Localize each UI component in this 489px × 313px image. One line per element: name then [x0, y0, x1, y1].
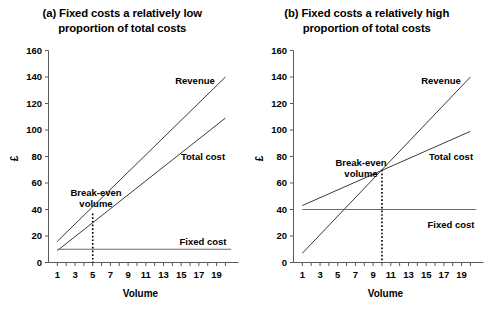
x-axis-title: Volume [123, 288, 159, 299]
series-label-fixed-cost: Fixed cost [180, 236, 228, 247]
break-even-charts-figure: (a) Fixed costs a relatively low proport… [0, 0, 489, 313]
y-axis-title: £ [9, 155, 20, 161]
x-tick-label-3: 3 [317, 269, 322, 280]
x-axis-title: Volume [367, 288, 403, 299]
y-tick-label-140: 140 [271, 71, 287, 82]
y-tick-label-0: 0 [281, 257, 286, 268]
y-tick-label-60: 60 [276, 177, 287, 188]
series-label-revenue: Revenue [175, 75, 215, 86]
y-tick-label-80: 80 [31, 151, 42, 162]
y-tick-label-0: 0 [37, 257, 42, 268]
x-tick-label-19: 19 [211, 269, 222, 280]
panel-b-plot: 020406080100120140160135791113151719Volu… [245, 0, 489, 313]
x-tick-label-5: 5 [90, 269, 96, 280]
break-even-label-line1: Break-even [70, 187, 121, 198]
x-tick-label-3: 3 [72, 269, 77, 280]
x-tick-label-15: 15 [420, 269, 431, 280]
x-tick-label-11: 11 [141, 269, 152, 280]
chart-panel-a: (a) Fixed costs a relatively low proport… [0, 0, 245, 313]
x-tick-label-13: 13 [403, 269, 414, 280]
x-tick-label-5: 5 [335, 269, 341, 280]
series-label-revenue: Revenue [421, 75, 461, 86]
x-tick-label-7: 7 [108, 269, 113, 280]
x-tick-label-19: 19 [456, 269, 467, 280]
y-tick-label-40: 40 [276, 204, 287, 215]
x-tick-label-9: 9 [125, 269, 130, 280]
y-tick-label-100: 100 [271, 124, 287, 135]
x-tick-label-9: 9 [370, 269, 375, 280]
x-tick-label-15: 15 [176, 269, 187, 280]
y-tick-label-160: 160 [271, 45, 287, 56]
x-tick-label-1: 1 [299, 269, 305, 280]
x-tick-label-11: 11 [385, 269, 396, 280]
series-line-total-cost [57, 118, 225, 251]
x-tick-label-13: 13 [158, 269, 169, 280]
y-tick-label-80: 80 [276, 151, 287, 162]
panel-a-plot: 020406080100120140160135791113151719Volu… [0, 0, 245, 313]
x-tick-label-17: 17 [438, 269, 449, 280]
y-tick-label-60: 60 [31, 177, 42, 188]
y-tick-label-120: 120 [271, 98, 287, 109]
series-label-total-cost: Total cost [428, 151, 473, 162]
break-even-label-line1: Break-even [335, 157, 386, 168]
x-tick-label-1: 1 [55, 269, 61, 280]
y-tick-label-140: 140 [26, 71, 42, 82]
y-axis-title: £ [254, 155, 265, 161]
series-label-fixed-cost: Fixed cost [427, 219, 475, 230]
series-line-total-cost [302, 131, 470, 205]
y-tick-label-160: 160 [26, 45, 42, 56]
y-tick-label-20: 20 [31, 230, 42, 241]
series-label-total-cost: Total cost [181, 151, 226, 162]
x-tick-label-7: 7 [352, 269, 357, 280]
break-even-label-line2: volume [344, 168, 377, 179]
chart-panel-b: (b) Fixed costs a relatively high propor… [245, 0, 489, 313]
y-tick-label-100: 100 [26, 124, 42, 135]
break-even-label-line2: volume [79, 198, 112, 209]
y-tick-label-20: 20 [276, 230, 287, 241]
x-tick-label-17: 17 [194, 269, 205, 280]
y-tick-label-40: 40 [31, 204, 42, 215]
y-tick-label-120: 120 [26, 98, 42, 109]
